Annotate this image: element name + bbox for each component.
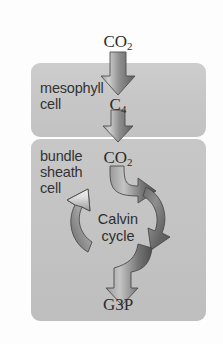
co2-top-formula: CO <box>103 32 127 51</box>
c4-label: C4 <box>88 95 148 115</box>
co2-mid-subscript: 2 <box>127 156 133 168</box>
g3p-label: G3P <box>88 295 148 315</box>
co2-mid-label: CO2 <box>88 148 148 168</box>
bundle-sheath-cell-label: bundle sheath cell <box>40 148 82 196</box>
c4-subscript: 4 <box>121 103 127 115</box>
c4-photosynthesis-diagram: mesophyll cell bundle sheath cell CO2 C4… <box>0 0 223 344</box>
co2-top-subscript: 2 <box>127 40 133 52</box>
calvin-cycle-label: Calvin cycle <box>86 211 150 245</box>
c4-formula: C <box>110 95 121 114</box>
co2-mid-formula: CO <box>103 148 127 167</box>
co2-top-label: CO2 <box>88 32 148 52</box>
g3p-formula: G3P <box>103 295 133 314</box>
